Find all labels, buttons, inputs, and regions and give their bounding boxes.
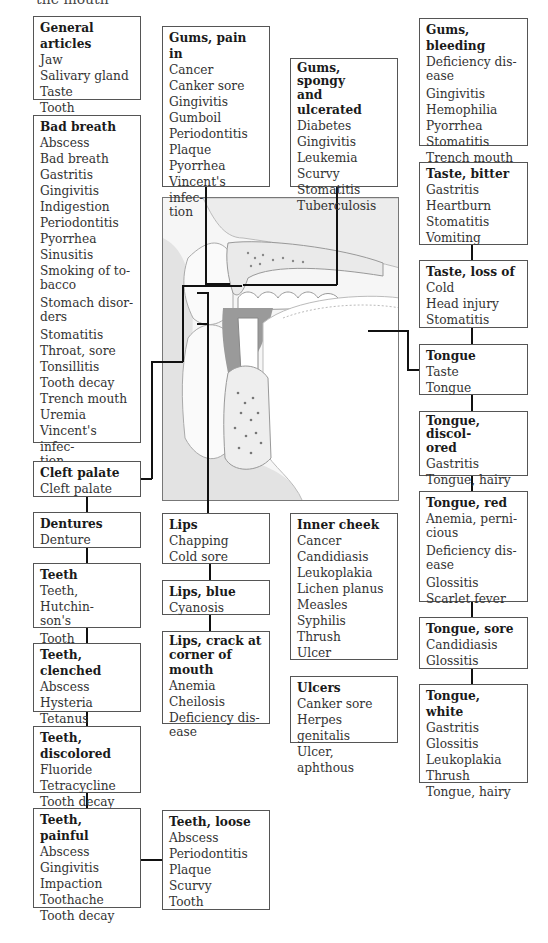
list-item: Plaque: [169, 862, 263, 878]
list-item: Tooth decay: [40, 908, 134, 924]
list-item: Gingivitis: [40, 860, 134, 876]
connector-lips-blue: [209, 563, 211, 580]
list-item: Anemia, perni-: [426, 511, 521, 527]
box-bad-breath: Bad breath Abscess Bad breath Gastritis …: [33, 115, 141, 443]
list-item: Tooth decay: [40, 375, 134, 391]
list-item: Taste: [426, 364, 521, 380]
list-item: Tooth: [169, 894, 263, 910]
list-item: Herpes genitalis: [297, 712, 391, 744]
list-item: Ulcer, aphthous: [297, 744, 391, 776]
list-item: Tetanus: [40, 711, 134, 727]
list-item: Gastritis: [426, 456, 521, 472]
list-item: Tongue, hairy: [426, 784, 521, 800]
list-item: Cleft palate: [40, 481, 134, 497]
list-item: Abscess: [40, 844, 134, 860]
list-item: Periodontitis: [40, 215, 134, 231]
cut-off-heading: the mouth: [36, 0, 109, 7]
list-item: Scurvy: [169, 878, 263, 894]
connector-lips-h2: [197, 323, 208, 325]
box-title: Lips, blue: [169, 584, 263, 600]
list-item: Pyorrhea: [40, 231, 134, 247]
list-item: Abscess: [169, 830, 263, 846]
list-item: Cancer: [297, 533, 391, 549]
box-lips-blue: Lips, blue Cyanosis: [162, 580, 270, 615]
list-item: Stomatitis: [426, 134, 521, 150]
box-title: Bad breath: [40, 119, 134, 135]
list-item: Ulcer: [297, 645, 391, 661]
list-item: Stomach disor-: [40, 295, 134, 311]
box-title: Tongue, red: [426, 495, 521, 511]
box-lips-crack: Lips, crack at corner of mouth Anemia Ch…: [162, 631, 270, 724]
list-item: Head injury: [426, 296, 521, 312]
list-item: Deficiency dis-: [426, 543, 521, 559]
list-item: Cyanosis: [169, 600, 263, 616]
list-item: Cheilosis: [169, 694, 263, 710]
list-item: Stomatitis: [426, 214, 521, 230]
box-title: Teeth, clenched: [40, 647, 134, 679]
list-item: Abscess: [40, 679, 134, 695]
list-item: Gastritis: [426, 182, 521, 198]
list-item: bacco: [40, 279, 134, 292]
list-item: Lichen planus: [297, 581, 391, 597]
list-item: Cold: [426, 280, 521, 296]
box-dentures: Dentures Denture: [33, 512, 141, 548]
list-item: Heartburn: [426, 198, 521, 214]
list-item: Cancer: [169, 62, 263, 78]
list-item: Throat, sore: [40, 343, 134, 359]
box-ulcers: Ulcers Canker sore Herpes genitalis Ulce…: [290, 676, 398, 743]
box-title: Lips: [169, 517, 263, 533]
connector-cleft-palate-h2: [151, 361, 183, 363]
connector-bitter-loss: [471, 244, 473, 260]
list-item: Stomatitis: [40, 327, 134, 343]
list-item: Vincent's infec-: [169, 174, 263, 206]
list-item: Teeth, Hutchin-: [40, 583, 134, 615]
list-item: tion: [169, 206, 263, 219]
box-title-line: corner of mouth: [169, 648, 263, 678]
box-cleft-palate: Cleft palate Cleft palate: [33, 461, 141, 497]
box-lips: Lips Chapping Cold sore: [162, 513, 270, 564]
mouth-cross-section-icon: [163, 198, 399, 501]
list-item: Leukemia: [297, 150, 391, 166]
box-title: Taste, loss of: [426, 264, 521, 280]
list-item: Deficiency dis-: [426, 54, 521, 70]
box-title: General articles: [40, 20, 134, 52]
box-gums-bleeding: Gums, bleeding Deficiency dis- ease Ging…: [419, 18, 528, 146]
list-item: Pyorrhea: [426, 118, 521, 134]
list-item: Stomatitis: [297, 182, 391, 198]
list-item: Indigestion: [40, 199, 134, 215]
box-title: Tongue, white: [426, 688, 521, 720]
box-inner-cheek: Inner cheek Cancer Candidiasis Leukoplak…: [290, 513, 398, 660]
list-item: Plaque: [169, 142, 263, 158]
list-item: Measles: [297, 597, 391, 613]
list-item: Taste: [40, 84, 134, 100]
list-item: Periodontitis: [169, 846, 263, 862]
list-item: ders: [40, 311, 134, 324]
connector-tongue-v: [407, 330, 409, 370]
box-title: Teeth, discolored: [40, 730, 134, 762]
box-general-articles: General articles Jaw Salivary gland Tast…: [33, 16, 141, 100]
box-gums-pain-in: Gums, pain in Cancer Canker sore Gingivi…: [162, 26, 270, 187]
box-tongue-white: Tongue, white Gastritis Glossitis Leukop…: [419, 684, 528, 783]
connector-gums-spongy-h: [243, 284, 337, 286]
box-title: Teeth, painful: [40, 812, 134, 844]
list-item: Fluoride: [40, 762, 134, 778]
list-item: Gingivitis: [169, 94, 263, 110]
list-item: Hysteria: [40, 695, 134, 711]
box-tongue-red: Tongue, red Anemia, perni- cious Deficie…: [419, 491, 528, 602]
list-item: Gastritis: [426, 720, 521, 736]
connector-tongue-h1: [368, 330, 408, 332]
box-taste-bitter: Taste, bitter Gastritis Heartburn Stomat…: [419, 162, 528, 245]
box-title-line: Lips, crack at: [169, 635, 263, 648]
connector-sore-white: [471, 668, 473, 684]
list-item: Candidiasis: [426, 637, 521, 653]
list-item: Impaction: [40, 876, 134, 892]
connector-cleft-palate-h3: [182, 285, 242, 287]
box-taste-loss-of: Taste, loss of Cold Head injury Stomatit…: [419, 260, 528, 328]
list-item: Deficiency dis-: [169, 710, 263, 726]
box-tongue-discolored: Tongue, discol- ored Gastritis Tongue, h…: [419, 411, 528, 476]
box-title-line: Tongue, discol-: [426, 415, 521, 441]
box-title: Cleft palate: [40, 465, 134, 481]
list-item: Salivary gland: [40, 68, 134, 84]
box-title: Dentures: [40, 516, 134, 532]
list-item: Vomiting: [426, 230, 521, 246]
